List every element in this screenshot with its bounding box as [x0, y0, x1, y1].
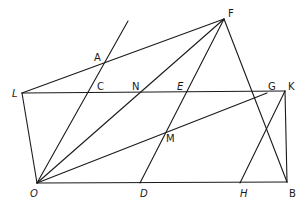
segment-ob — [37, 182, 287, 183]
segment-kb — [285, 91, 287, 182]
segment-lo — [22, 93, 37, 183]
point-label-g: G — [268, 81, 276, 92]
segment-og — [37, 93, 267, 183]
point-label-m: M — [166, 133, 175, 144]
segment-kh — [240, 91, 285, 183]
segment-lk — [22, 91, 285, 93]
point-label-o: O — [30, 188, 38, 199]
point-label-h: H — [240, 188, 248, 199]
point-label-c: C — [97, 81, 104, 92]
geometry-diagram: FALCNEGKMODHB — [0, 0, 306, 204]
point-label-b: B — [289, 188, 296, 199]
segment-fb — [224, 19, 287, 182]
point-label-f: F — [228, 8, 234, 19]
point-label-n: N — [132, 81, 139, 92]
point-label-a: A — [94, 52, 101, 63]
point-label-e: E — [177, 81, 184, 92]
segment-ot — [37, 21, 128, 183]
diagram-segments — [22, 19, 287, 183]
diagram-labels: FALCNEGKMODHB — [12, 8, 296, 199]
segment-fd — [140, 19, 224, 183]
point-label-k: K — [288, 81, 295, 92]
point-label-l: L — [12, 88, 18, 99]
segment-of — [37, 19, 224, 183]
point-label-d: D — [140, 188, 148, 199]
